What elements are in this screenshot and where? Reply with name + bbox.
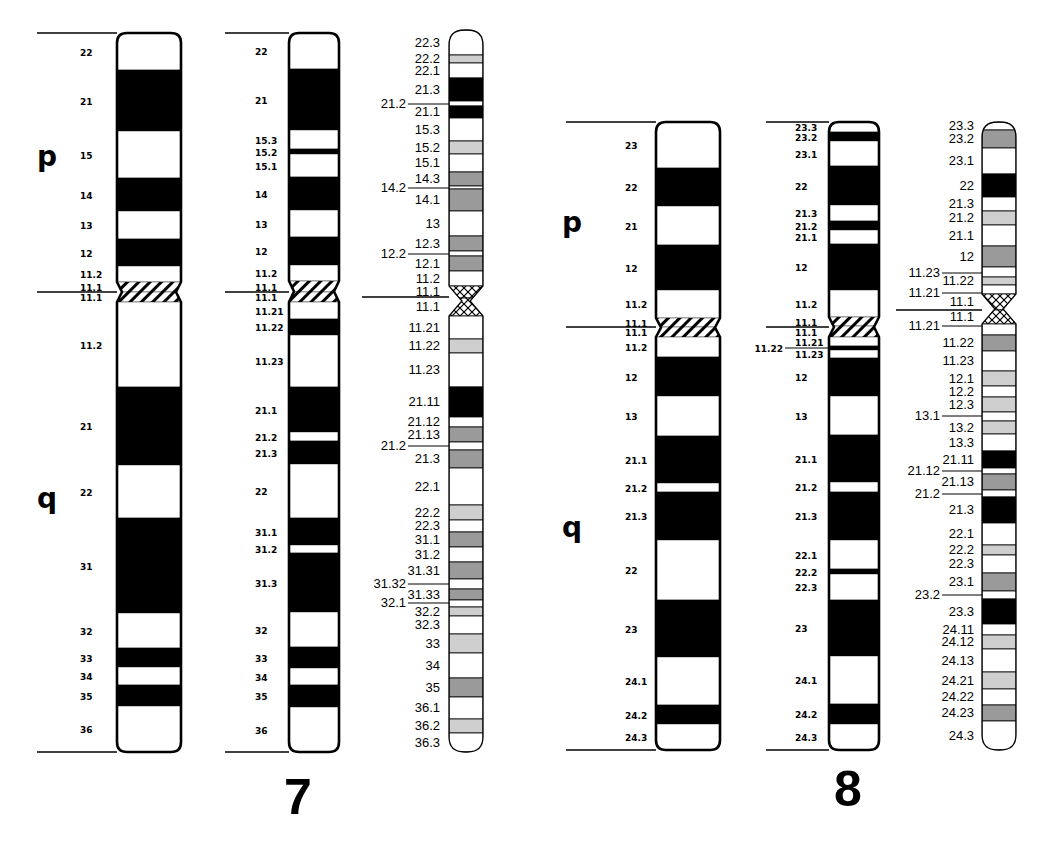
band-label: 21.3 [949,196,974,211]
band-label: 23.3 [795,123,817,133]
band-label: 14 [255,190,268,200]
band-label: 11.1 [80,293,102,303]
band-21.3 [982,497,1016,523]
band-24.21 [982,672,1016,689]
band-label: 11.2 [625,300,647,310]
band-33 [117,648,181,667]
band-label: 21.2 [949,210,974,225]
band-21.12 [982,468,1016,474]
band-11.1 [656,318,720,327]
band-24.23 [982,705,1016,721]
band-34 [117,667,181,685]
band-24.2 [656,705,720,724]
band-22 [656,540,720,600]
band-11.22 [449,339,483,353]
band-11.21 [289,302,339,319]
band-label: 24.23 [941,705,974,720]
band-11.1 [449,298,483,316]
band-label: 34 [80,672,93,682]
band-label: 22.1 [795,551,817,561]
band-14 [117,178,181,211]
band-label: 12.3 [415,236,440,251]
band-32.2 [449,607,483,616]
band-33 [449,634,483,653]
band-label: 21.3 [949,502,974,517]
band-11.1 [117,282,181,292]
band-label: 11.21 [795,338,823,348]
band-label: 31.2 [255,545,277,555]
leader-label: 11.22 [755,344,783,354]
band-label: 22.2 [949,542,974,557]
leader-label: 11.21 [908,285,940,300]
band-21.11 [449,387,483,417]
band-label: 11.23 [408,362,440,377]
band-label: 11.23 [255,357,283,367]
band-label: 15.3 [255,136,277,146]
band-label: 21.3 [415,451,440,466]
band-24.11 [982,624,1016,635]
band-24.1 [656,657,720,705]
band-label: 21.1 [795,233,817,243]
band-label: 12 [795,263,808,273]
band-31.32 [449,579,483,589]
band-21.3 [982,197,1016,211]
band-21.1 [982,225,1016,246]
band-23.2 [982,591,1016,599]
band-label: 11.1 [255,293,277,303]
band-label: 24.2 [625,711,647,721]
band-label: 31.1 [255,528,277,538]
band-36.1 [449,697,483,719]
band-label: 24.12 [941,634,974,649]
band-label: 15.3 [415,122,440,137]
band-label: 32 [255,626,268,636]
band-label: 22.3 [949,556,974,571]
band-12.1 [982,371,1016,386]
band-11.22 [982,335,1016,351]
band-label: 14.3 [415,171,440,186]
band-label: 11.2 [80,341,102,351]
band-15.2 [289,149,339,154]
band-label: 21.3 [255,449,277,459]
band-23.1 [982,573,1016,591]
band-11.22 [289,319,339,335]
band-label: 21 [80,97,93,107]
band-11.1 [656,327,720,337]
band-label: 11.1 [950,294,974,309]
band-label: 21 [625,222,638,232]
band-15.2 [449,141,483,154]
band-21.13 [449,427,483,442]
band-21.2 [982,490,1016,497]
leader-label: 31.32 [373,576,406,591]
leader-label: 13.1 [915,408,940,423]
band-21.2 [829,482,879,492]
band-label: 15.2 [255,148,277,158]
band-label: 22 [255,47,268,57]
band-21.2 [982,211,1016,225]
band-label: 11.1 [795,318,817,328]
band-13.3 [982,434,1016,451]
band-21.3 [656,492,720,540]
band-13.2 [982,421,1016,434]
band-label: 11.2 [255,269,277,279]
band-13 [289,210,339,237]
band-label: 36.3 [415,735,440,750]
chromosome-8-number: 8 [834,760,862,818]
band-22.1 [449,63,483,78]
band-label: 11.1 [950,309,974,324]
band-label: 24.3 [795,733,817,743]
band-36.2 [449,719,483,733]
band-21.2 [656,483,720,492]
band-22.2 [829,569,879,574]
band-11.22 [982,277,1016,285]
band-label: 21.1 [625,456,647,466]
band-label: 23.3 [949,604,974,619]
band-label: 21.13 [407,427,440,442]
band-label: 36 [255,726,268,736]
chromosome-8-group: 2322211211.211.111.111.2121321.121.221.3… [566,118,1016,750]
karyogram-diagram: 22211514131211.211.111.111.2212231323334… [0,0,1052,852]
band-23.1 [982,148,1016,174]
band-24.2 [829,704,879,724]
band-label: 33 [80,654,93,664]
band-label: 11.1 [80,283,102,293]
band-22.2 [449,505,483,520]
